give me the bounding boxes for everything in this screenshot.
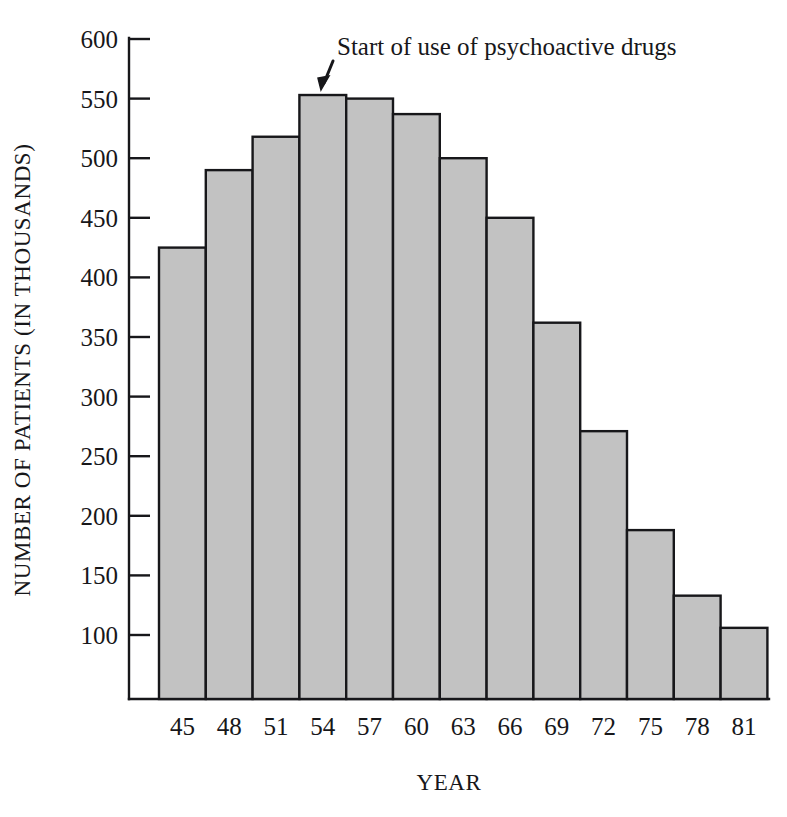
bar: [393, 114, 440, 699]
y-axis-tick-label: 300: [81, 384, 119, 411]
bar: [487, 218, 534, 699]
x-axis-tick-label: 72: [591, 713, 616, 740]
y-axis-tick-label: 100: [81, 622, 119, 649]
bar: [299, 95, 346, 699]
y-axis-tick-label: 200: [81, 503, 119, 530]
bar: [627, 530, 674, 699]
x-axis-tick-label: 48: [217, 713, 242, 740]
x-axis-tick-label: 51: [264, 713, 289, 740]
x-axis-tick-label: 78: [685, 713, 710, 740]
bar: [346, 99, 393, 699]
y-axis-tick-label: 600: [81, 26, 119, 53]
bar: [721, 628, 768, 699]
bar: [206, 170, 253, 699]
x-axis-tick-label: 81: [732, 713, 757, 740]
bar: [674, 596, 721, 699]
y-axis-tick-label: 250: [81, 443, 119, 470]
annotation-label: Start of use of psychoactive drugs: [337, 33, 677, 60]
y-axis-title: NUMBER OF PATIENTS (IN THOUSANDS): [10, 143, 35, 596]
bar: [533, 323, 580, 699]
y-axis-tick-label: 350: [81, 324, 119, 351]
bar: [440, 158, 487, 699]
y-axis-tick-label: 150: [81, 562, 119, 589]
y-axis-tick-label: 550: [81, 86, 119, 113]
bar: [159, 248, 206, 699]
x-axis-tick-label: 75: [638, 713, 663, 740]
y-axis-tick-label: 400: [81, 264, 119, 291]
bar: [580, 431, 627, 699]
y-axis-tick-label: 500: [81, 145, 119, 172]
x-axis-tick-label: 69: [544, 713, 569, 740]
x-axis-tick-label: 45: [170, 713, 195, 740]
y-axis-tick-label: 450: [81, 205, 119, 232]
bar-chart: 100150200250300350400450500550600 454851…: [0, 0, 787, 817]
bar: [253, 137, 300, 699]
x-axis-tick-label: 66: [498, 713, 523, 740]
x-axis-tick-label: 57: [357, 713, 382, 740]
x-axis-title: YEAR: [416, 770, 481, 795]
x-axis-tick-label: 54: [310, 713, 336, 740]
x-axis-tick-label: 63: [451, 713, 476, 740]
chart-container: 100150200250300350400450500550600 454851…: [0, 0, 787, 817]
x-axis-tick-label: 60: [404, 713, 429, 740]
